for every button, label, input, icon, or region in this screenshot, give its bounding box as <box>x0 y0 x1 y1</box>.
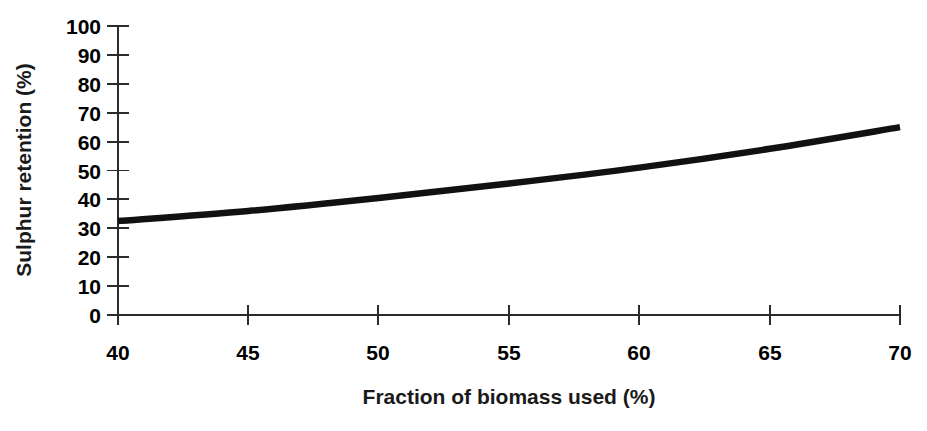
y-tick-label-60: 60 <box>78 131 101 154</box>
x-axis: 40 45 50 55 60 65 70 Fraction of biomass… <box>106 305 911 408</box>
x-tick-label-60: 60 <box>627 341 650 364</box>
x-axis-title: Fraction of biomass used (%) <box>363 385 656 408</box>
y-tick-label-20: 20 <box>78 246 101 269</box>
sulphur-retention-curve <box>118 127 900 221</box>
y-tick-label-80: 80 <box>78 73 101 96</box>
chart-figure: 100 90 80 70 60 50 40 30 20 10 0 Sulphur… <box>0 0 927 431</box>
y-tick-label-30: 30 <box>78 217 101 240</box>
y-tick-label-90: 90 <box>78 44 101 67</box>
x-tick-label-50: 50 <box>366 341 389 364</box>
sulphur-retention-line-chart: 100 90 80 70 60 50 40 30 20 10 0 Sulphur… <box>0 0 927 431</box>
y-tick-label-10: 10 <box>78 275 101 298</box>
y-tick-label-40: 40 <box>78 188 101 211</box>
x-tick-label-45: 45 <box>236 341 260 364</box>
y-tick-label-50: 50 <box>78 160 101 183</box>
y-tick-label-0: 0 <box>89 304 101 327</box>
y-axis-title: Sulphur retention (%) <box>12 63 35 277</box>
y-axis: 100 90 80 70 60 50 40 30 20 10 0 Sulphur… <box>12 15 129 327</box>
data-series-group <box>118 127 900 221</box>
y-tick-label-100: 100 <box>66 15 101 38</box>
y-tick-label-70: 70 <box>78 102 101 125</box>
x-tick-label-65: 65 <box>758 341 782 364</box>
x-tick-label-70: 70 <box>888 341 911 364</box>
x-tick-label-55: 55 <box>497 341 521 364</box>
x-tick-label-40: 40 <box>106 341 129 364</box>
